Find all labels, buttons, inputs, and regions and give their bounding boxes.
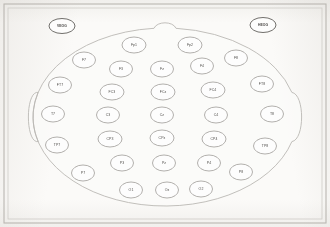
electrode-label: VEOG bbox=[57, 24, 67, 28]
electrode-label: Pz bbox=[162, 161, 166, 165]
electrode-row-occipital: O1OzO2 bbox=[120, 181, 213, 198]
eeg-montage-canvas: Fp1Fp2F7F3FzF4F8FT7FC3FCzFC4FT8T7C3CzC4T… bbox=[0, 0, 330, 227]
electrode-label: Fz bbox=[160, 67, 164, 71]
electrode-label: F8 bbox=[234, 56, 238, 60]
electrode-fc3[interactable]: FC3 bbox=[100, 84, 124, 100]
electrode-p8[interactable]: P8 bbox=[230, 164, 253, 180]
electrode-label: TP7 bbox=[54, 143, 61, 147]
electrode-pz[interactable]: Pz bbox=[153, 155, 176, 171]
scan-blur-layer: Fp1Fp2F7F3FzF4F8FT7FC3FCzFC4FT8T7C3CzC4T… bbox=[0, 0, 330, 227]
electrode-cpz[interactable]: CPz bbox=[150, 130, 174, 146]
electrode-label: P8 bbox=[239, 170, 243, 174]
electrode-label: FCz bbox=[160, 90, 167, 94]
electrode-label: F7 bbox=[82, 58, 86, 62]
electrode-label: T7 bbox=[51, 112, 55, 116]
electrode-label: T8 bbox=[270, 112, 274, 116]
electrode-label: FC4 bbox=[210, 88, 217, 92]
electrode-o2[interactable]: O2 bbox=[190, 181, 213, 197]
electrode-f7[interactable]: F7 bbox=[73, 52, 96, 68]
electrode-ft7[interactable]: FT7 bbox=[49, 77, 72, 93]
eeg-diagram-page: Fp1Fp2F7F3FzF4F8FT7FC3FCzFC4FT8T7C3CzC4T… bbox=[0, 0, 330, 227]
electrode-ft8[interactable]: FT8 bbox=[251, 76, 274, 92]
electrode-c3[interactable]: C3 bbox=[97, 107, 120, 123]
electrode-label: F3 bbox=[119, 67, 123, 71]
electrode-f3[interactable]: F3 bbox=[110, 61, 133, 77]
electrode-fc4[interactable]: FC4 bbox=[201, 82, 225, 98]
electrode-tp8[interactable]: TP8 bbox=[254, 138, 277, 154]
electrode-p4[interactable]: P4 bbox=[198, 155, 221, 171]
electrode-tp7[interactable]: TP7 bbox=[46, 137, 69, 153]
electrode-t7[interactable]: T7 bbox=[42, 106, 65, 122]
electrode-label: FT7 bbox=[57, 83, 63, 87]
electrode-label: P7 bbox=[81, 171, 85, 175]
electrode-t8[interactable]: T8 bbox=[261, 106, 284, 122]
electrode-fz[interactable]: Fz bbox=[151, 61, 174, 77]
electrode-cp4[interactable]: CP4 bbox=[202, 131, 226, 147]
electrode-label: Fp2 bbox=[187, 43, 193, 47]
electrode-heog[interactable]: HEOG bbox=[250, 18, 276, 33]
electrode-oz[interactable]: Oz bbox=[156, 182, 179, 198]
electrode-label: Cz bbox=[160, 113, 165, 117]
electrode-label: P4 bbox=[207, 161, 211, 165]
electrode-fcz[interactable]: FCz bbox=[151, 84, 175, 100]
electrode-label: CP4 bbox=[211, 137, 218, 141]
electrode-p7[interactable]: P7 bbox=[72, 165, 95, 181]
electrode-label: FT8 bbox=[259, 82, 265, 86]
electrode-veog[interactable]: VEOG bbox=[49, 19, 75, 34]
electrode-fp2[interactable]: Fp2 bbox=[178, 37, 202, 53]
electrode-label: O1 bbox=[129, 188, 134, 192]
electrode-label: CPz bbox=[159, 136, 166, 140]
electrode-label: F4 bbox=[200, 64, 204, 68]
electrode-label: CP3 bbox=[107, 137, 114, 141]
electrode-label: C3 bbox=[106, 113, 111, 117]
electrode-label: HEOG bbox=[258, 23, 268, 27]
electrode-cz[interactable]: Cz bbox=[151, 107, 174, 123]
electrode-label: P3 bbox=[120, 161, 124, 165]
electrode-p3[interactable]: P3 bbox=[111, 155, 134, 171]
electrode-f8[interactable]: F8 bbox=[225, 50, 248, 66]
electrode-label: O2 bbox=[199, 187, 204, 191]
electrode-o1[interactable]: O1 bbox=[120, 182, 143, 198]
electrode-label: Fp1 bbox=[131, 43, 137, 47]
electrode-label: TP8 bbox=[262, 144, 269, 148]
electrode-fp1[interactable]: Fp1 bbox=[122, 37, 146, 53]
electrode-c4[interactable]: C4 bbox=[205, 107, 228, 123]
electrode-label: Oz bbox=[165, 188, 170, 192]
electrode-f4[interactable]: F4 bbox=[191, 58, 214, 74]
electrode-cp3[interactable]: CP3 bbox=[98, 131, 122, 147]
electrode-label: C4 bbox=[214, 113, 219, 117]
electrode-label: FC3 bbox=[109, 90, 116, 94]
